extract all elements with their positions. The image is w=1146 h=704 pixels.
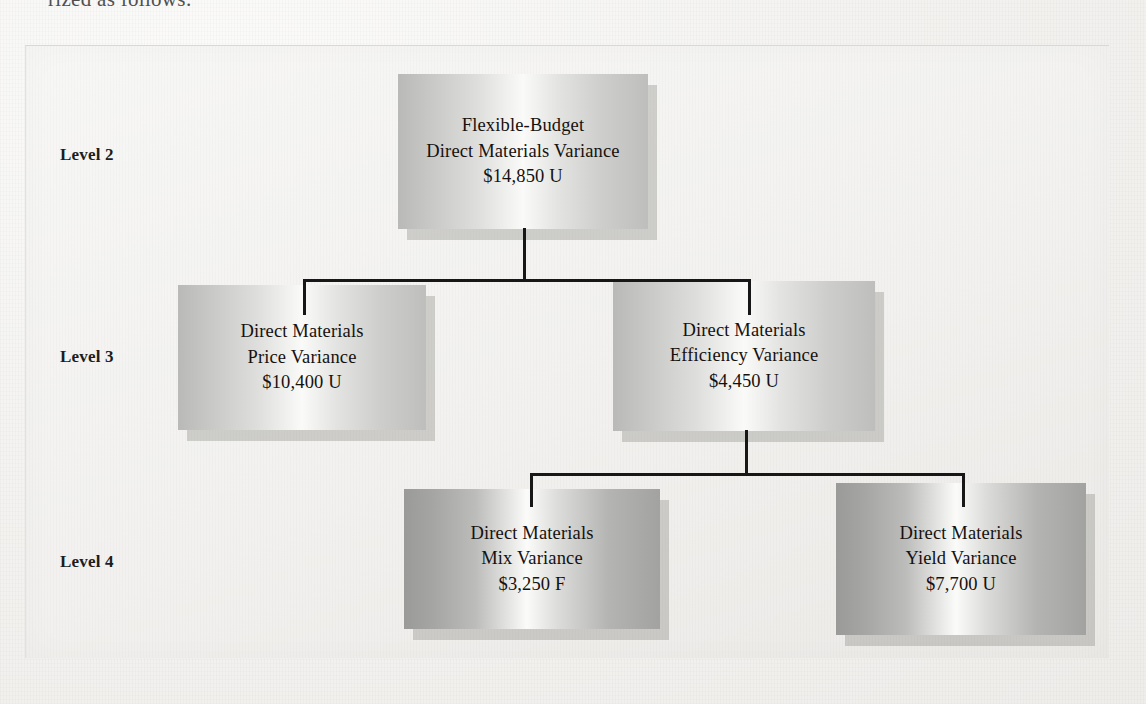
connector-level3-to-level4-bar <box>530 473 965 476</box>
node-line-1: Direct Materials <box>240 319 363 345</box>
node-direct-materials-price-variance[interactable]: Direct Materials Price Variance $10,400 … <box>178 285 426 430</box>
node-amount: $4,450 U <box>709 369 779 395</box>
cutoff-running-text: rized as follows: <box>48 0 192 12</box>
node-amount: $7,700 U <box>926 572 996 598</box>
node-line-2: Price Variance <box>247 345 356 371</box>
node-direct-materials-efficiency-variance[interactable]: Direct Materials Efficiency Variance $4,… <box>613 281 875 431</box>
node-flexible-budget-direct-materials-variance[interactable]: Flexible-Budget Direct Materials Varianc… <box>398 74 648 229</box>
node-amount: $3,250 F <box>499 572 566 598</box>
variance-hierarchy-diagram: Level 2 Level 3 Level 4 Flexible-Budget … <box>0 0 1146 704</box>
node-amount: $10,400 U <box>262 370 341 396</box>
level-label-level-2: Level 2 <box>60 145 114 165</box>
node-line-2: Direct Materials Variance <box>426 139 619 165</box>
node-direct-materials-yield-variance[interactable]: Direct Materials Yield Variance $7,700 U <box>836 483 1086 635</box>
connector-efficiency-variance-stem <box>745 430 748 475</box>
node-amount: $14,850 U <box>483 164 562 190</box>
level-label-level-3: Level 3 <box>60 347 114 367</box>
node-line-2: Mix Variance <box>481 546 583 572</box>
node-line-1: Direct Materials <box>682 318 805 344</box>
node-line-2: Efficiency Variance <box>670 343 819 369</box>
node-line-1: Direct Materials <box>899 521 1022 547</box>
connector-flexible-budget-stem <box>523 228 526 280</box>
level-label-level-4: Level 4 <box>60 552 114 572</box>
node-line-1: Flexible-Budget <box>462 113 584 139</box>
node-direct-materials-mix-variance[interactable]: Direct Materials Mix Variance $3,250 F <box>404 489 660 629</box>
node-line-1: Direct Materials <box>470 521 593 547</box>
node-line-2: Yield Variance <box>905 546 1016 572</box>
